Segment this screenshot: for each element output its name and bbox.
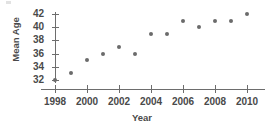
- scatter-markers: [0, 0, 269, 127]
- data-point: [149, 32, 153, 36]
- data-point: [85, 58, 89, 62]
- data-point: [213, 19, 217, 23]
- data-point: [245, 12, 249, 16]
- x-axis-title: Year: [112, 112, 172, 123]
- data-point: [101, 52, 105, 56]
- chart-screenshot: Mean Age 424038363432 199820002002200420…: [0, 0, 269, 127]
- data-point: [229, 19, 233, 23]
- data-point: [69, 71, 73, 75]
- data-point: [117, 45, 121, 49]
- data-point: [197, 25, 201, 29]
- data-point: [53, 78, 57, 82]
- data-point: [133, 52, 137, 56]
- data-point: [181, 19, 185, 23]
- data-point: [165, 32, 169, 36]
